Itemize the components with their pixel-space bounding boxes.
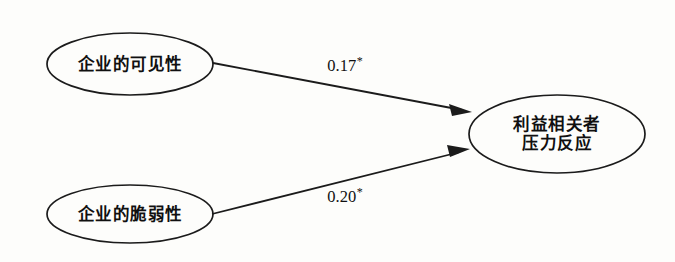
- significance-asterisk-visibility: *: [357, 54, 363, 68]
- edge-vulnerability-to-response-arrowhead: [447, 145, 470, 157]
- node-vulnerability-ellipse[interactable]: [47, 185, 213, 243]
- diagram-canvas: [0, 0, 675, 262]
- node-visibility-ellipse[interactable]: [47, 33, 213, 95]
- coefficient-value-vulnerability: 0.20: [327, 187, 356, 206]
- edge-label-vulnerability-coefficient: 0.20*: [327, 188, 362, 206]
- significance-asterisk-vulnerability: *: [357, 185, 363, 199]
- edge-visibility-to-response-arrowhead: [449, 104, 472, 116]
- node-stakeholder-pressure-response-ellipse[interactable]: [469, 95, 645, 173]
- coefficient-value-visibility: 0.17: [327, 56, 356, 75]
- path-diagram: 企业的可见性 企业的脆弱性 利益相关者 压力反应 0.17* 0.20*: [0, 0, 675, 262]
- edge-label-visibility-coefficient: 0.17*: [327, 57, 362, 75]
